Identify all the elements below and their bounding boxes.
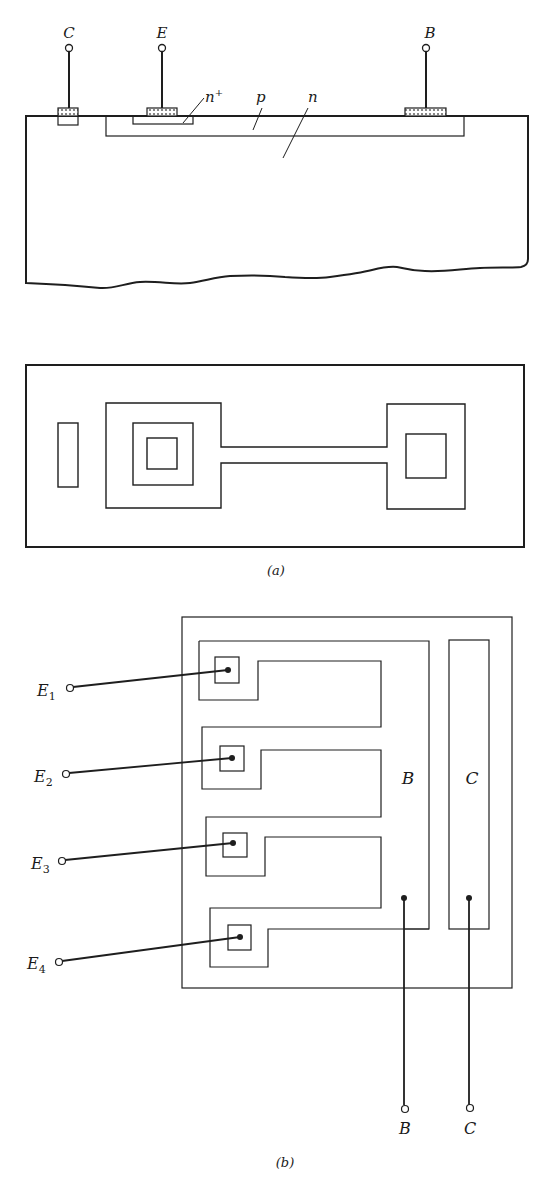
interdigitated-layout: E1 E2 E3 E4 B C B C xyxy=(26,617,512,1138)
base-region-outline xyxy=(199,641,429,929)
collector-terminal-icon-b xyxy=(467,1105,474,1112)
emitter-contact-window xyxy=(147,438,177,469)
collector-contact-window xyxy=(58,423,78,487)
emitter-3-label: E3 xyxy=(30,854,50,876)
emitter-4-terminal-icon xyxy=(56,959,63,966)
emitter-4-label: E4 xyxy=(26,954,46,976)
collector-contact-region xyxy=(58,116,78,125)
chip-outline-b xyxy=(182,617,512,988)
emitter-metal-contact xyxy=(147,108,177,116)
n-substrate xyxy=(26,116,528,288)
chip-outline xyxy=(26,365,524,547)
emitter-3-terminal-icon xyxy=(59,858,66,865)
terminal-label-b: B xyxy=(423,24,435,42)
emitter-1-terminal-icon xyxy=(67,685,74,692)
base-terminal-label: B xyxy=(398,1119,411,1138)
emitter-1-lead xyxy=(73,670,228,687)
base-metal-contact xyxy=(405,108,446,116)
transistor-diagram: C E B n+ p n (a) xyxy=(0,0,546,1190)
emitter-2-terminal-icon xyxy=(63,771,70,778)
base-contact-window xyxy=(406,434,446,478)
cross-section: C E B n+ p n xyxy=(26,24,528,288)
emitter-3-dot-icon xyxy=(230,840,236,846)
region-label-n-plus: n+ xyxy=(205,87,223,106)
base-terminal-icon xyxy=(423,45,430,52)
collector-terminal-icon xyxy=(66,45,73,52)
collector-region-label: C xyxy=(465,768,478,788)
base-region-label: B xyxy=(401,768,415,788)
terminal-label-e: E xyxy=(156,24,168,42)
collector-metal-contact xyxy=(58,108,78,116)
emitter-terminal-icon xyxy=(159,45,166,52)
emitter-2-lead xyxy=(69,758,232,773)
p-base-outline xyxy=(106,403,465,509)
emitter-4-lead xyxy=(62,937,240,961)
emitter-2-dot-icon xyxy=(229,755,235,761)
terminal-label-c: C xyxy=(63,24,75,42)
collector-terminal-label: C xyxy=(464,1119,476,1138)
emitter-n-plus-region xyxy=(133,423,193,485)
emitter-1-dot-icon xyxy=(225,667,231,673)
region-label-n: n xyxy=(308,88,318,106)
p-base-region xyxy=(106,116,464,136)
base-comb-outline xyxy=(199,641,429,967)
p-leader xyxy=(253,108,262,130)
caption-b: (b) xyxy=(276,1155,294,1170)
emitter-4-dot-icon xyxy=(237,934,243,940)
top-view xyxy=(26,365,524,547)
base-dot-icon xyxy=(401,895,407,901)
region-label-p: p xyxy=(256,88,266,106)
n-plus-emitter-region xyxy=(133,116,193,124)
emitter-1-label: E1 xyxy=(36,681,56,703)
emitter-2-label: E2 xyxy=(33,767,53,789)
caption-a: (a) xyxy=(267,563,285,578)
collector-dot-icon xyxy=(466,895,472,901)
base-terminal-icon-b xyxy=(402,1106,409,1113)
emitter-3-lead xyxy=(65,843,233,860)
